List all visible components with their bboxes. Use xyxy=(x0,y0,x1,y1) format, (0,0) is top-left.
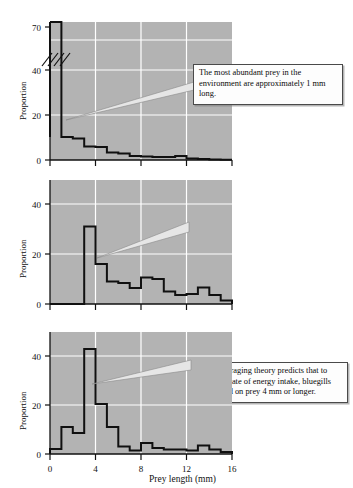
x-axis-label: Prey length (mm) xyxy=(6,474,353,484)
y-axis-label: Proportion xyxy=(18,81,28,120)
y-axis-label: Proportion xyxy=(18,391,28,430)
x-tick-label: 4 xyxy=(93,464,98,474)
y-axis-label: Proportion xyxy=(18,239,28,278)
x-tick-label: 16 xyxy=(228,464,238,474)
panel-3-plot: 40 20 0 0 4 8 12 16 xyxy=(0,322,353,488)
y-ticks xyxy=(45,204,50,304)
panel-optimal-foraging: 40 20 0 Proportion Optimal foraging theo… xyxy=(0,166,353,326)
panel-2-plot: 40 20 0 xyxy=(0,166,353,326)
y-ticks xyxy=(45,356,50,454)
callout-environment: The most abundant prey in the environmen… xyxy=(193,64,343,105)
x-tick-label: 0 xyxy=(48,464,53,474)
bluegill-prey-length-figure: 70 40 20 0 Proportion The most abundant … xyxy=(0,0,353,488)
y-tick-label: 40 xyxy=(32,352,42,362)
y-tick-label: 0 xyxy=(37,300,42,310)
panel-environment: 70 40 20 0 Proportion The most abundant … xyxy=(0,0,353,168)
y-tick-label: 20 xyxy=(32,401,42,411)
y-tick-label: 0 xyxy=(37,450,42,460)
y-tick-label: 40 xyxy=(32,200,42,210)
y-tick-label: 20 xyxy=(32,250,42,260)
x-tick-label: 12 xyxy=(182,464,191,474)
x-tick-label: 8 xyxy=(139,464,144,474)
y-tick-label: 40 xyxy=(32,66,42,76)
y-tick-label: 0 xyxy=(37,156,42,166)
x-ticks xyxy=(50,454,232,460)
panel-bluegill-diets: 40 20 0 0 4 8 12 16 Proportion As predic… xyxy=(0,322,353,488)
y-tick-label: 70 xyxy=(32,23,42,33)
y-tick-label: 20 xyxy=(32,111,42,121)
